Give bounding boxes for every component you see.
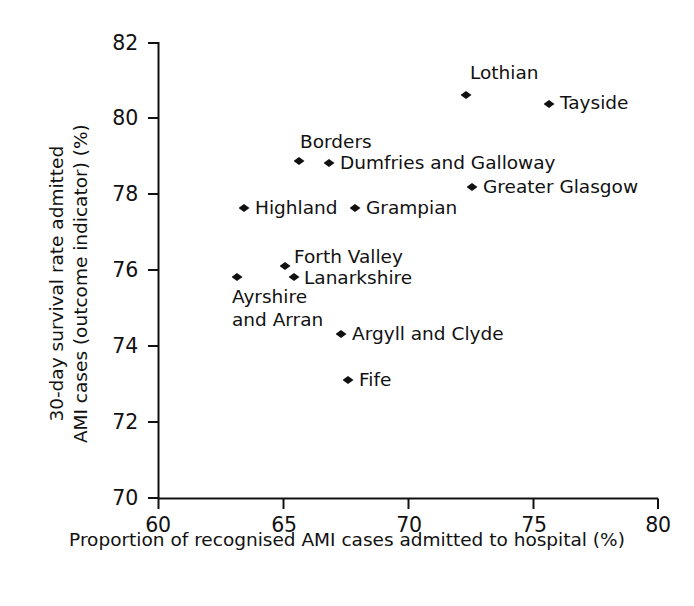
y-axis-title-line-2: AMI cases (outcome indicator) (%) — [69, 69, 93, 499]
data-label-ayrshire-and-arran: Ayrshire and Arran — [232, 286, 323, 331]
y-tick-label-74: 74 — [90, 334, 138, 358]
y-axis-title-line-1: 30-day survival rate admitted — [45, 69, 69, 499]
data-label-dumfries-and-galloway: Dumfries and Galloway — [340, 152, 556, 175]
data-label-greater-glasgow-text: Greater Glasgow — [483, 176, 638, 199]
y-tick-label-80: 80 — [90, 106, 138, 130]
plot-axes-svg — [0, 0, 694, 606]
data-label-grampian: Grampian — [366, 197, 457, 220]
data-label-dumfries-and-galloway-text: Dumfries and Galloway — [340, 152, 556, 175]
data-label-tayside-text: Tayside — [560, 92, 628, 115]
y-axis-ticks — [148, 43, 159, 498]
data-label-lanarkshire: Lanarkshire — [304, 267, 412, 290]
y-axis-title: 30-day survival rate admitted AMI cases … — [45, 69, 92, 499]
data-label-lothian: Lothian — [470, 62, 538, 85]
data-label-argyll-and-clyde-text: Argyll and Clyde — [352, 323, 504, 346]
data-label-forth-valley: Forth Valley — [294, 246, 403, 269]
data-label-greater-glasgow: Greater Glasgow — [483, 176, 638, 199]
data-label-borders: Borders — [300, 131, 372, 154]
data-label-forth-valley-text: Forth Valley — [294, 246, 403, 269]
x-axis-title-line-1: Proportion of recognised AMI cases — [69, 529, 394, 550]
cropped-caption-text — [344, 592, 350, 606]
data-label-fife: Fife — [359, 369, 391, 392]
x-axis-title: Proportion of recognised AMI cases admit… — [0, 528, 694, 552]
data-label-borders-text: Borders — [300, 131, 372, 154]
y-tick-label-70: 70 — [90, 486, 138, 510]
y-tick-label-82: 82 — [90, 31, 138, 55]
data-label-lothian-text: Lothian — [470, 62, 538, 85]
y-tick-label-78: 78 — [90, 182, 138, 206]
x-axis-ticks — [159, 499, 659, 510]
data-label-highland: Highland — [255, 197, 337, 220]
data-label-highland-text: Highland — [255, 197, 337, 220]
data-label-lanarkshire-text: Lanarkshire — [304, 267, 412, 290]
data-label-ayrshire-and-arran-line-2: and Arran — [232, 309, 323, 332]
data-label-fife-text: Fife — [359, 369, 391, 392]
y-tick-label-76: 76 — [90, 258, 138, 282]
data-label-tayside: Tayside — [560, 92, 628, 115]
scatter-chart-figure: 82 80 78 76 74 72 70 60 65 70 75 80 Prop… — [0, 0, 694, 606]
data-label-grampian-text: Grampian — [366, 197, 457, 220]
data-label-argyll-and-clyde: Argyll and Clyde — [352, 323, 504, 346]
x-axis-title-line-2: admitted to hospital (%) — [399, 529, 624, 550]
y-tick-label-72: 72 — [90, 410, 138, 434]
cropped-caption-sliver — [0, 592, 694, 606]
